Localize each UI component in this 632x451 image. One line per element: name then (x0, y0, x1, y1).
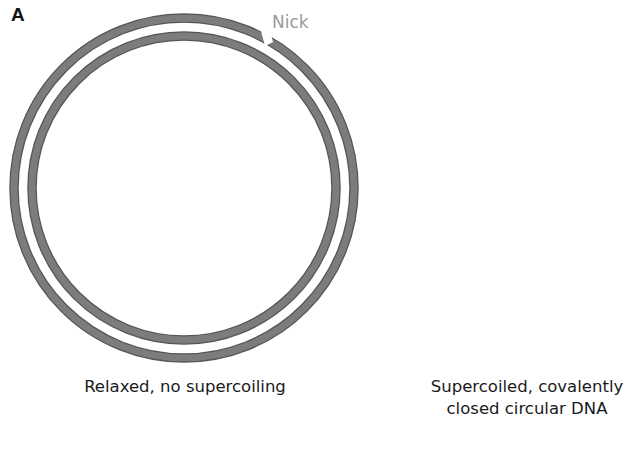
supercoil-band-front (503, 63, 579, 318)
supercoil-band-back (476, 63, 553, 318)
supercoiled-caption-line1: Supercoiled, covalently (412, 376, 632, 398)
supercoiled-dna (476, 63, 579, 318)
relaxed-circular-dna (14, 18, 354, 358)
nick-annotation: Nick (272, 12, 309, 32)
panel-label: A (11, 4, 25, 26)
inner-strand (32, 36, 336, 340)
supercoiled-caption-line2: closed circular DNA (412, 398, 632, 420)
supercoiled-caption: Supercoiled, covalently closed circular … (412, 376, 632, 420)
outer-strand (14, 18, 354, 358)
relaxed-caption: Relaxed, no supercoiling (40, 376, 330, 398)
